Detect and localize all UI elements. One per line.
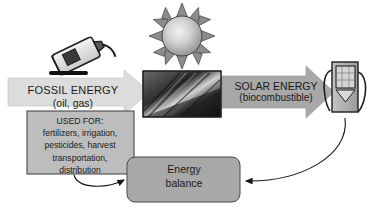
diagram-canvas <box>0 0 379 210</box>
fossil-energy-arrow <box>8 70 150 114</box>
energy-flow-diagram: FOSSIL ENERGY (oil, gas) SOLAR ENERGY (b… <box>0 0 379 210</box>
used-for-box <box>27 111 134 174</box>
energy-balance-box <box>127 157 240 202</box>
solar-energy-arrow <box>222 66 334 118</box>
fuel-pump-icon <box>324 62 365 112</box>
wheat-crop-photo <box>143 71 221 117</box>
connector-pump-to-balance <box>246 118 345 181</box>
sun-icon <box>149 3 215 69</box>
connector-usedfor-to-balance <box>74 175 124 186</box>
